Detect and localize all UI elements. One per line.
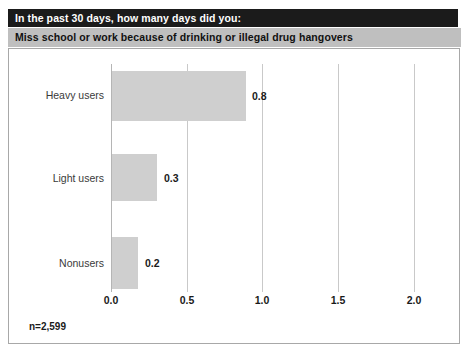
subtitle-header-bar: Miss school or work because of drinking … xyxy=(8,28,461,47)
subtitle-text: Miss school or work because of drinking … xyxy=(15,31,353,43)
bar-heavy-users xyxy=(112,71,246,121)
category-label-heavy-users: Heavy users xyxy=(9,89,104,101)
gridline-2-0 xyxy=(414,64,415,292)
question-emphasis-text: days xyxy=(172,12,196,24)
bar-value-nonusers: 0.2 xyxy=(145,257,160,269)
xtick-label-1-0: 1.0 xyxy=(242,294,282,306)
xtick-label-2-0: 2.0 xyxy=(394,294,434,306)
bar-value-heavy-users: 0.8 xyxy=(252,90,267,102)
chart-panel: Heavy users Light users Nonusers 0.8 0.3… xyxy=(8,48,460,344)
bar-light-users xyxy=(112,154,157,201)
question-suffix-text: did you: xyxy=(196,12,241,24)
xtick-label-0-0: 0.0 xyxy=(91,294,131,306)
bar-value-light-users: 0.3 xyxy=(164,172,179,184)
xtick-label-1-5: 1.5 xyxy=(318,294,358,306)
xtick-label-0-5: 0.5 xyxy=(167,294,207,306)
category-label-light-users: Light users xyxy=(9,172,104,184)
bar-nonusers xyxy=(112,237,138,289)
category-label-nonusers: Nonusers xyxy=(9,257,104,269)
question-prefix-text: In the past 30 days, how many xyxy=(15,12,172,24)
plot-area: Heavy users Light users Nonusers 0.8 0.3… xyxy=(9,49,461,345)
question-header-bar: In the past 30 days, how many days did y… xyxy=(8,9,458,27)
chart-figure: In the past 30 days, how many days did y… xyxy=(0,0,468,359)
sample-size-note: n=2,599 xyxy=(29,321,66,332)
gridline-1-5 xyxy=(338,64,339,292)
